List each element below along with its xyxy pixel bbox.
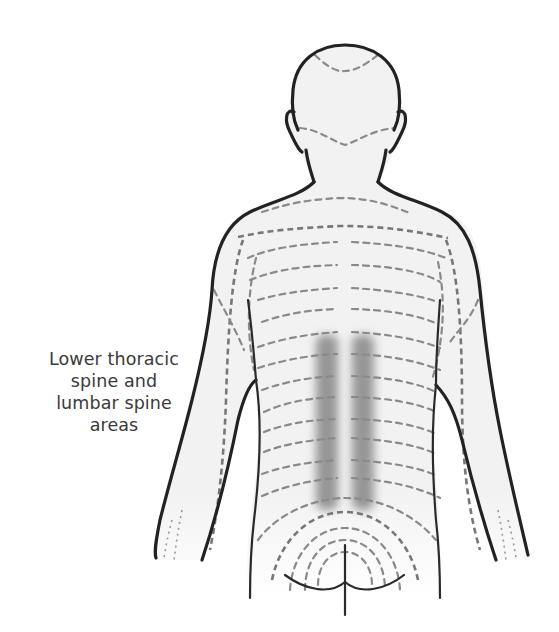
back-anatomy-illustration xyxy=(0,0,559,632)
body-silhouette xyxy=(157,45,530,600)
label-line-2: spine and xyxy=(14,370,214,392)
label-line-4: areas xyxy=(14,414,214,436)
label-line-3: lumbar spine xyxy=(14,392,214,414)
label-line-1: Lower thoracic xyxy=(14,348,214,370)
region-label: Lower thoracic spine and lumbar spine ar… xyxy=(14,348,214,436)
